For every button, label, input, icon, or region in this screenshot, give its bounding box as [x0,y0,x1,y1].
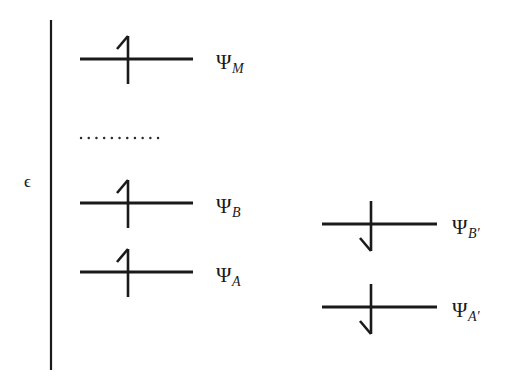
level-psi-a [80,249,193,297]
psi-subscript-psi-a-prime: A′ [468,309,480,324]
spin-down-arrow-head-psi-b-prime [360,238,371,251]
level-psi-a-prime [322,284,437,334]
psi-glyph-psi-b: Ψ [216,194,232,218]
level-psi-b [80,180,193,228]
psi-subscript-psi-b: B [232,205,241,220]
psi-glyph-psi-a-prime: Ψ [452,298,468,322]
spin-up-arrow-head-psi-b [117,180,128,193]
diagram-canvas [0,0,512,392]
psi-glyph-psi-b-prime: Ψ [452,215,468,239]
level-label-psi-a: ΨA [216,265,241,289]
spin-up-arrow-head-psi-a [117,249,128,262]
level-label-psi-a-prime: ΨA′ [452,300,480,324]
level-label-psi-b: ΨB [216,196,241,220]
level-psi-b-prime [322,201,437,251]
psi-subscript-psi-b-prime: B′ [468,226,480,241]
level-label-psi-m: ΨM [216,52,244,76]
spin-down-arrow-head-psi-a-prime [360,321,371,334]
energy-level-diagram: ϵ ΨM ΨB ΨA ΨB′ ΨA′ [0,0,512,392]
level-label-psi-b-prime: ΨB′ [452,217,480,241]
level-psi-m [80,36,193,84]
psi-subscript-psi-m: M [232,61,244,76]
spin-up-arrow-head-psi-m [117,36,128,49]
psi-glyph-psi-a: Ψ [216,263,232,287]
energy-axis-label: ϵ [24,173,31,190]
psi-subscript-psi-a: A [232,274,241,289]
psi-glyph-psi-m: Ψ [216,50,232,74]
